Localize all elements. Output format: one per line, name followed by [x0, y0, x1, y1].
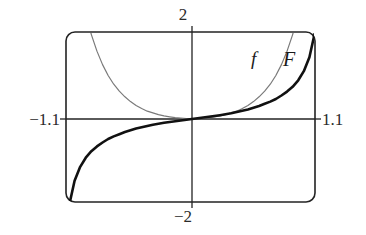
figure-container: 2 −2 −1.1 1.1 f F — [0, 0, 366, 235]
axes-group — [60, 26, 321, 208]
plot-frame — [66, 32, 315, 202]
axis-label-top: 2 — [0, 6, 366, 23]
viewing-rectangle-border — [66, 32, 315, 202]
axis-label-bottom: −2 — [0, 208, 366, 225]
axis-label-right: 1.1 — [322, 111, 366, 128]
curve-label-capital-f: F — [283, 49, 295, 69]
curve-label-f: f — [251, 49, 256, 68]
axis-label-left: −1.1 — [8, 111, 60, 128]
